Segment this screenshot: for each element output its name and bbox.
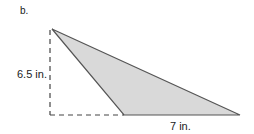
triangle-diagram [0, 0, 254, 134]
height-label: 6.5 in. [17, 69, 47, 80]
shaded-triangle [52, 29, 240, 115]
base-label: 7 in. [170, 121, 191, 132]
